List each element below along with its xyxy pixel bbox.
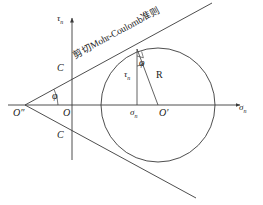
lower-failure-envelope-line	[25, 105, 196, 198]
tau-axis-subscript: n	[60, 19, 63, 25]
mohr-coulomb-figure: τn σn 剪切Mohr-Coulomb准则 C C φ φ R τn σn O…	[0, 0, 263, 205]
circle-center-label: O′	[159, 108, 168, 118]
cohesion-label-lower: C	[57, 130, 64, 140]
sigma-axis-label: σn	[239, 103, 246, 114]
cohesion-label-upper: C	[57, 63, 64, 73]
normal-stress-label: σn	[130, 108, 137, 119]
shear-stress-subscript: n	[127, 75, 130, 81]
origin-point-label: O	[63, 108, 70, 118]
friction-angle-label-circle: φ	[139, 58, 145, 68]
shear-stress-label: τn	[124, 70, 130, 81]
sigma-axis-subscript: n	[243, 108, 246, 114]
tau-axis-label: τn	[57, 14, 63, 25]
normal-stress-subscript: n	[134, 113, 137, 119]
radius-label: R	[156, 70, 163, 80]
friction-angle-label-apex: φ	[52, 91, 58, 101]
apex-point-label: O″	[13, 108, 24, 118]
